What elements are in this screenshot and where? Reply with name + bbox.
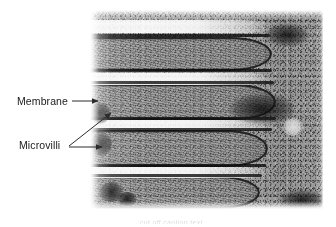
cytoplasmic-density xyxy=(280,190,323,209)
membrane-leaflet xyxy=(90,128,272,131)
microvillus-profile xyxy=(90,130,268,167)
membrane-leaflet xyxy=(90,81,274,84)
label-membrane: Membrane xyxy=(17,96,68,107)
label-microvilli: Microvilli xyxy=(19,140,60,151)
intercellular-gap xyxy=(90,20,274,33)
micrograph-figure: Membrane Microvilli cut off caption text xyxy=(0,0,336,227)
membrane-leaflet xyxy=(90,174,262,177)
caption-remnant: cut off caption text xyxy=(140,219,330,224)
membrane-leaflet xyxy=(90,34,270,37)
cytoplasmic-density xyxy=(266,24,308,46)
membrane-leaflet xyxy=(90,69,272,72)
dense-tip-blob xyxy=(90,132,112,156)
dense-tip-blob xyxy=(116,192,138,206)
dense-tip-blob xyxy=(90,102,110,124)
membrane-leaflet xyxy=(90,164,266,167)
cytoplasmic-density xyxy=(230,94,294,124)
microvillus-profile xyxy=(90,37,272,71)
bright-vesicle xyxy=(282,118,304,136)
electron-micrograph-image xyxy=(90,10,323,209)
